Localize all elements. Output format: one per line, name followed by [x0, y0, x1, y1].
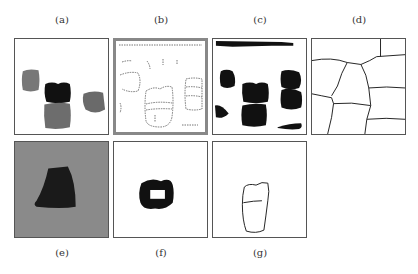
binary-blobs-graphic — [213, 39, 306, 134]
ring-region-graphic — [114, 142, 207, 237]
panel-a-label: (a) — [14, 14, 110, 25]
panel-c-image — [212, 38, 307, 135]
panel-d-image — [311, 38, 406, 135]
object-outline-graphic — [213, 142, 306, 237]
gray-blobs-graphic — [15, 39, 108, 134]
panel-e-label: (e) — [14, 247, 110, 258]
panel-c-label: (c) — [212, 14, 308, 25]
panel-b-image — [113, 38, 208, 135]
panel-f-image — [113, 141, 208, 238]
panel-f-label: (f) — [113, 247, 209, 258]
panel-g-label: (g) — [212, 247, 308, 258]
panel-g-image — [212, 141, 307, 238]
region-partition-graphic — [312, 39, 405, 134]
edge-map-graphic — [116, 41, 205, 132]
panel-b-label: (b) — [113, 14, 209, 25]
dark-region-graphic — [15, 142, 108, 237]
panel-d-label: (d) — [311, 14, 407, 25]
panel-e-image — [14, 141, 109, 238]
panel-a-image — [14, 38, 109, 135]
